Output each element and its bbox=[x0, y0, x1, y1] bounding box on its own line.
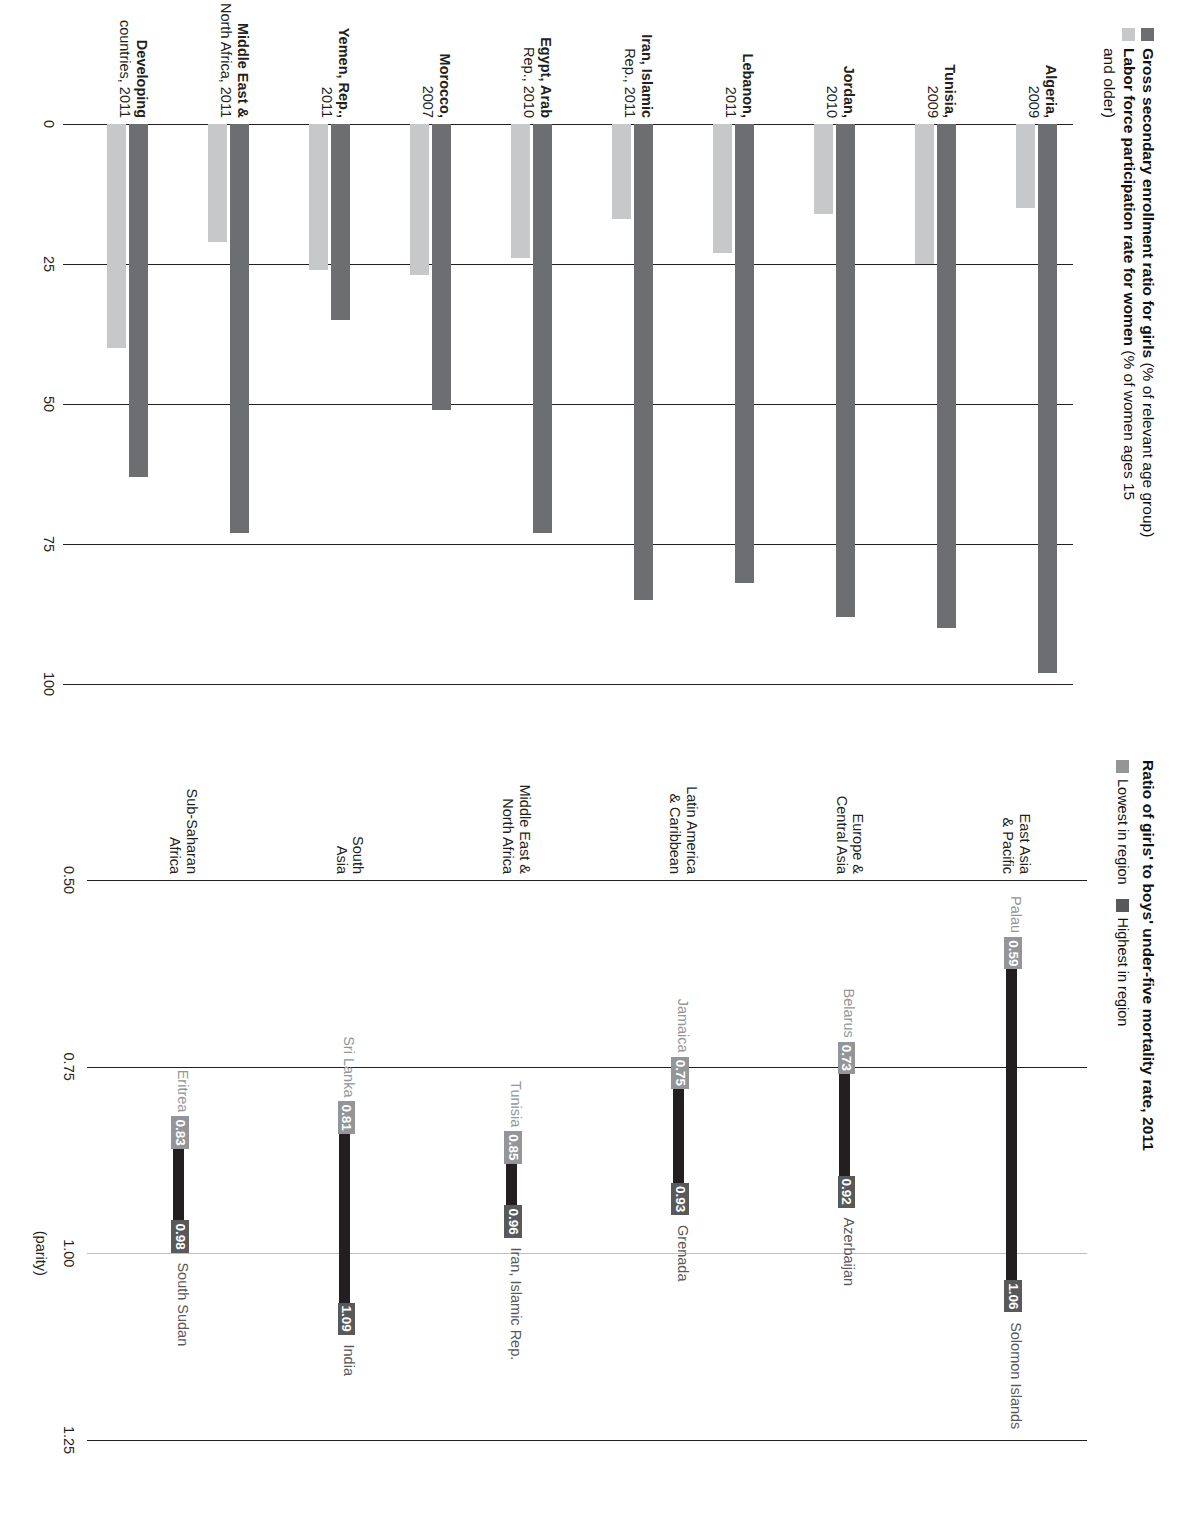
chart-under-five-mortality: Ratio of girls' to boys' under-five mort… bbox=[37, 760, 1157, 1505]
enrollment-title-unit: (% of relevant age group) bbox=[1140, 358, 1157, 537]
report-page: Gross secondary enrollment ratio for gir… bbox=[0, 0, 1187, 1534]
low-value-badge: 0.83 bbox=[171, 1116, 189, 1148]
high-country-label: Iran, Islamic Rep. bbox=[509, 1247, 524, 1360]
bar-enrollment bbox=[230, 124, 249, 533]
category-label-group: Middle East &North Africa, 2011 bbox=[218, 3, 251, 118]
category-label: Algeria, bbox=[1043, 65, 1059, 118]
low-country-label: Jamaica bbox=[675, 999, 690, 1053]
bar-labor bbox=[713, 124, 732, 253]
category-label: Tunisia, bbox=[942, 64, 958, 118]
category-label-group: Tunisia,2009 bbox=[925, 64, 958, 118]
bar-labor bbox=[511, 124, 530, 258]
region-label: Middle East &North Africa bbox=[500, 785, 533, 874]
low-value-badge: 0.85 bbox=[505, 1131, 523, 1163]
bar-labor bbox=[814, 124, 833, 214]
region-label-line: & Pacific bbox=[1000, 814, 1017, 874]
legend-label-lowest: Lowest in region bbox=[1115, 779, 1131, 885]
high-country-label: Solomon Islands bbox=[1009, 1322, 1024, 1429]
labor-title-unit-cont: and older) bbox=[1100, 48, 1118, 668]
category-label-group: Morocco,2007 bbox=[420, 54, 453, 118]
legend-label-highest: Highest in region bbox=[1115, 918, 1131, 1027]
mortality-title: Ratio of girls' to boys' under-five mort… bbox=[1139, 760, 1157, 1505]
region-label-line: Sub-Saharan bbox=[183, 789, 200, 874]
legend-item-lowest: Lowest in region bbox=[1115, 760, 1131, 885]
low-value-badge: 0.59 bbox=[1005, 937, 1023, 969]
category-label-group: Yemen, Rep.,2011 bbox=[319, 28, 352, 118]
bar-labor bbox=[410, 124, 429, 275]
low-value-badge: 0.75 bbox=[671, 1057, 689, 1089]
gridline bbox=[63, 264, 1073, 265]
region-label: SouthAsia bbox=[333, 836, 366, 874]
category-label: Jordan, bbox=[841, 66, 857, 118]
category-label: Yemen, Rep., bbox=[336, 28, 352, 118]
axis-tick-label: 100 bbox=[41, 672, 57, 696]
high-value-badge: 1.06 bbox=[1005, 1280, 1023, 1312]
labor-title-unit: (% of women ages 15 bbox=[1121, 346, 1138, 500]
bar-labor bbox=[612, 124, 631, 219]
axis-tick-label: 1.25 bbox=[61, 1426, 77, 1454]
bar-enrollment bbox=[432, 124, 451, 410]
bar-enrollment bbox=[735, 124, 754, 583]
enrollment-plot-area: 1007550250Algeria,2009Tunisia,2009Jordan… bbox=[63, 124, 1073, 684]
axis-tick-label: 1.00 bbox=[61, 1239, 77, 1267]
gridline bbox=[63, 544, 1073, 545]
gridline bbox=[63, 684, 1073, 685]
axis-tick-label: 0 bbox=[41, 120, 57, 128]
category-year: North Africa, 2011 bbox=[218, 3, 234, 118]
category-year: 2011 bbox=[319, 28, 335, 118]
bar-enrollment bbox=[937, 124, 956, 628]
gridline bbox=[63, 404, 1073, 405]
region-label-line: Africa bbox=[166, 789, 183, 874]
bar-labor bbox=[1016, 124, 1035, 208]
low-country-label: Eritrea bbox=[175, 1070, 190, 1113]
region-label: East Asia& Pacific bbox=[1000, 814, 1033, 874]
category-year: 2009 bbox=[1026, 65, 1042, 118]
category-label: Iran, Islamic bbox=[639, 34, 655, 118]
low-country-label: Palau bbox=[1009, 896, 1024, 933]
enrollment-title-bold: Gross secondary enrollment ratio for gir… bbox=[1140, 48, 1157, 358]
region-label-line: Central Asia bbox=[833, 796, 850, 874]
category-label-group: Algeria,2009 bbox=[1026, 65, 1059, 118]
region-label-line: & Caribbean bbox=[666, 786, 683, 874]
high-country-label: Grenada bbox=[675, 1225, 690, 1281]
category-year: countries, 2011 bbox=[117, 20, 133, 118]
axis-line bbox=[87, 880, 1087, 881]
high-value-badge: 0.93 bbox=[671, 1183, 689, 1215]
axis-tick-label: 25 bbox=[41, 256, 57, 272]
category-label-group: Egypt, ArabRep., 2010 bbox=[521, 37, 554, 118]
region-label-line: South bbox=[350, 836, 367, 874]
category-label-group: Iran, IslamicRep., 2011 bbox=[622, 34, 655, 118]
low-country-label: Belarus bbox=[842, 989, 857, 1038]
enrollment-legend: Gross secondary enrollment ratio for gir… bbox=[1100, 28, 1157, 668]
category-label: Middle East & bbox=[235, 3, 251, 118]
low-country-label: Tunisia bbox=[509, 1081, 524, 1127]
legend-item-enrollment: Gross secondary enrollment ratio for gir… bbox=[1139, 28, 1157, 668]
range-bar bbox=[1006, 947, 1017, 1298]
legend-item-labor: Labor force participation rate for women… bbox=[1119, 28, 1137, 668]
legend-swatch-icon bbox=[1141, 28, 1154, 41]
region-label-line: Europe & bbox=[850, 796, 867, 874]
bar-labor bbox=[208, 124, 227, 242]
mortality-legend: Lowest in region Highest in region bbox=[1115, 760, 1131, 1026]
category-label: Lebanon, bbox=[740, 54, 756, 118]
region-label-line: Middle East & bbox=[516, 785, 533, 874]
axis-tick-label: 75 bbox=[41, 536, 57, 552]
gridline bbox=[87, 1253, 1087, 1254]
category-label: Morocco, bbox=[437, 54, 453, 118]
bar-enrollment bbox=[129, 124, 148, 477]
bar-labor bbox=[915, 124, 934, 264]
category-year: Rep., 2011 bbox=[622, 34, 638, 118]
high-value-badge: 0.92 bbox=[838, 1176, 856, 1208]
category-year: 2007 bbox=[420, 54, 436, 118]
mortality-plot-area: 0.500.751.001.25(parity)0.591.06PalauSol… bbox=[87, 880, 1087, 1440]
high-country-label: India bbox=[342, 1345, 357, 1376]
region-label: Latin America& Caribbean bbox=[666, 786, 699, 874]
bar-enrollment bbox=[331, 124, 350, 320]
bar-labor bbox=[309, 124, 328, 270]
category-year: Rep., 2010 bbox=[521, 37, 537, 118]
legend-swatch-icon bbox=[1122, 28, 1135, 41]
category-label-group: Jordan,2010 bbox=[824, 66, 857, 118]
low-country-label: Sri Lanka bbox=[342, 1036, 357, 1097]
region-label-line: Latin America bbox=[683, 786, 700, 874]
axis-tick-label: 0.75 bbox=[61, 1053, 77, 1081]
